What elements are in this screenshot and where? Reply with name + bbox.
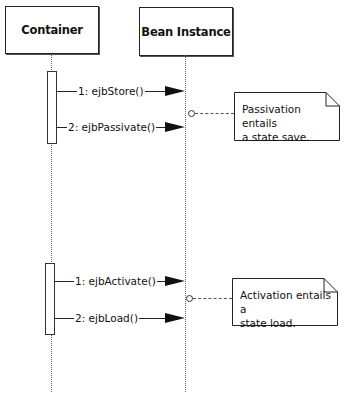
note-line-1: Passivation entails — [242, 102, 334, 130]
message-label: 1: ejbActivate() — [74, 274, 157, 288]
participant-container-label: Container — [21, 23, 83, 37]
note-connector-1 — [195, 113, 234, 114]
message-label: 1: ejbStore() — [77, 84, 145, 98]
message-label: 2: ejbLoad() — [74, 311, 139, 325]
container-activation-bar-1 — [47, 71, 57, 144]
message-ejbpassivate: 2: ejbPassivate() — [57, 120, 185, 134]
note-text: Passivation entails a state save. — [242, 102, 334, 144]
note-anchor-circle-icon — [186, 295, 193, 302]
participant-bean-instance-label: Bean Instance — [141, 25, 230, 39]
note-activation: Activation entails a state load. — [232, 278, 338, 326]
participant-bean-instance: Bean Instance — [139, 7, 233, 56]
participant-container: Container — [5, 6, 99, 54]
message-label: 2: ejbPassivate() — [67, 120, 156, 134]
arrowhead-icon — [165, 276, 185, 286]
message-ejbactivate: 1: ejbActivate() — [54, 274, 185, 288]
note-line-1: Activation entails a — [240, 288, 332, 316]
note-line-2: a state save. — [242, 130, 334, 144]
arrowhead-icon — [165, 313, 185, 323]
note-connector-2 — [193, 298, 232, 299]
message-ejbload: 2: ejbLoad() — [54, 311, 185, 325]
note-anchor-circle-icon — [188, 110, 195, 117]
message-ejbstore: 1: ejbStore() — [57, 84, 185, 98]
note-passivation: Passivation entails a state save. — [234, 92, 340, 141]
arrowhead-icon — [165, 86, 185, 96]
note-line-2: state load. — [240, 316, 332, 330]
bean-instance-lifeline — [185, 55, 186, 392]
note-text: Activation entails a state load. — [240, 288, 332, 330]
arrowhead-icon — [165, 122, 185, 132]
